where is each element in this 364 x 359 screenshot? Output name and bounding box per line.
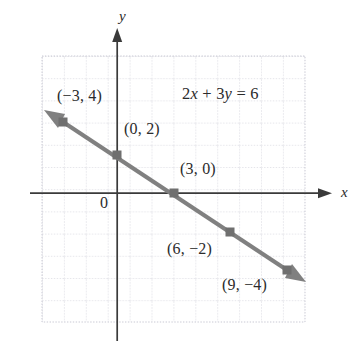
origin-label: 0	[100, 194, 108, 212]
point-label-0-2: (0, 2)	[124, 120, 160, 138]
data-point-marker	[226, 228, 235, 237]
equation-coef-y: 3	[216, 84, 224, 103]
point-label-neg3-4: (−3, 4)	[57, 87, 102, 105]
equation-var-x: x	[190, 84, 198, 103]
equation-plus-operator: +	[202, 84, 212, 103]
data-point-marker	[113, 151, 122, 160]
y-axis-label: y	[119, 8, 126, 25]
point-label-6-neg2: (6, −2)	[167, 240, 212, 258]
data-point-marker	[170, 189, 179, 198]
equation-constant: 6	[250, 84, 258, 103]
equation-label: 2x + 3y = 6	[182, 84, 259, 104]
x-axis-label: x	[341, 184, 348, 201]
equation-var-y: y	[225, 84, 233, 103]
equation-equals-operator: =	[236, 84, 246, 103]
data-point-marker	[283, 266, 292, 275]
x-axis-arrowhead-icon	[318, 188, 332, 198]
y-axis-arrowhead-icon	[112, 28, 122, 42]
point-label-3-0: (3, 0)	[180, 160, 216, 178]
coordinate-plane-svg	[0, 0, 364, 359]
point-label-9-neg4: (9, −4)	[222, 276, 267, 294]
data-point-marker	[59, 118, 68, 127]
graph-figure: y x 0 2x + 3y = 6 (−3, 4) (0, 2) (3, 0) …	[0, 0, 364, 359]
